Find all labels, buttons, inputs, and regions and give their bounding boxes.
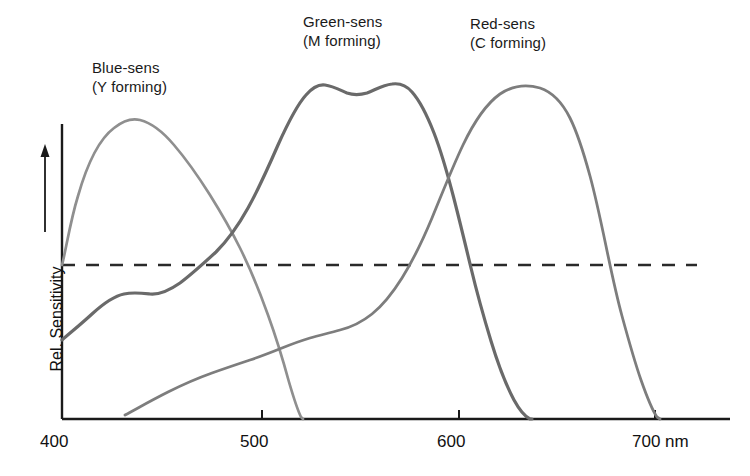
y-axis-title: Rel. Sensitivity [48, 239, 66, 399]
annotation-blue-sens-line1: Blue-sens [92, 58, 167, 77]
annotation-blue-sens-line2: (Y forming) [92, 77, 167, 96]
annotation-red-sens: Red-sens (C forming) [470, 14, 546, 52]
annotation-red-sens-line1: Red-sens [470, 14, 546, 33]
curve-red-sens [125, 86, 660, 419]
curve-blue-sens [62, 119, 303, 419]
annotation-green-sens-line2: (M forming) [303, 31, 382, 50]
y-axis-arrow-icon [41, 144, 50, 232]
x-tick-label-500: 500 [240, 432, 268, 452]
annotation-green-sens-line1: Green-sens [303, 12, 382, 31]
annotation-red-sens-line2: (C forming) [470, 33, 546, 52]
annotation-blue-sens: Blue-sens (Y forming) [92, 58, 167, 96]
x-tick-label-700: 700 nm [632, 432, 689, 452]
curve-green-sens [62, 84, 532, 419]
x-tick-label-600: 600 [437, 432, 465, 452]
annotation-green-sens: Green-sens (M forming) [303, 12, 382, 50]
x-tick-label-400: 400 [40, 432, 68, 452]
chart-page: Blue-sens (Y forming) Green-sens (M form… [0, 0, 750, 476]
